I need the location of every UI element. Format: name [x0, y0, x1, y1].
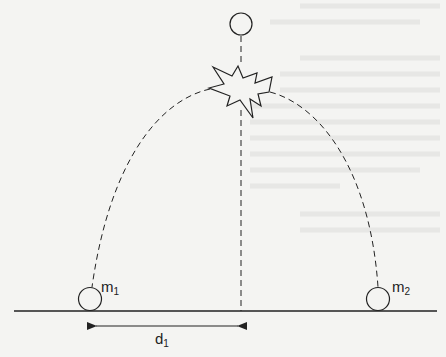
mass2-label: m2 — [392, 278, 410, 297]
distance-label: d1 — [155, 330, 169, 349]
background-show-through — [250, 6, 440, 230]
left-fragment-trajectory — [92, 89, 210, 287]
top-ball — [230, 13, 252, 35]
mass1-label-subscript: 1 — [114, 286, 120, 297]
mass2-ball — [367, 288, 390, 311]
distance-label-subscript: 1 — [163, 338, 169, 349]
diagram-canvas: m1 m2 d1 — [0, 0, 446, 357]
mass2-label-subscript: 2 — [405, 286, 411, 297]
mass2-label-text: m — [392, 278, 405, 295]
mass1-ball — [79, 288, 102, 311]
projectile-explosion-diagram — [0, 0, 446, 357]
mass1-label-text: m — [101, 278, 114, 295]
mass1-label: m1 — [101, 278, 119, 297]
